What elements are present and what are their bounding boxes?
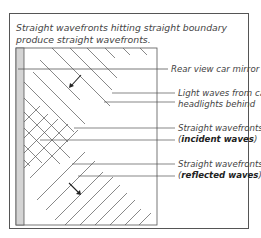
mirror-strip xyxy=(16,48,24,225)
reflection-diagram xyxy=(0,0,261,238)
label-light-waves: Light waves from car headlights behind xyxy=(178,88,261,110)
label-reflected: Straight wavefronts (reflected waves) xyxy=(178,159,261,181)
label-incident: Straight wavefronts (incident waves) xyxy=(178,123,261,145)
label-mirror: Rear view car mirror xyxy=(171,64,259,75)
